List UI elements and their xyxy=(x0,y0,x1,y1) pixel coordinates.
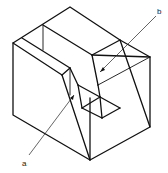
isometric-drawing: a b xyxy=(0,0,168,173)
label-b: b xyxy=(157,7,162,16)
block-outline xyxy=(13,7,150,160)
label-a: a xyxy=(22,159,27,168)
